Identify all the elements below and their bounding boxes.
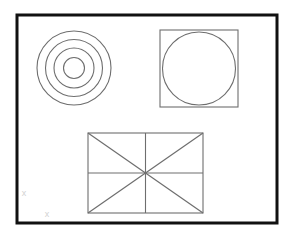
canvas-background: [0, 0, 297, 239]
corner-mark-lower: x: [45, 209, 50, 219]
internal-construction-lines: [88, 133, 203, 213]
corner-mark-upper: x: [22, 188, 27, 198]
drawing-canvas: xx: [0, 0, 297, 239]
geometry-drawing: xx: [0, 0, 297, 239]
rectangle-diagonals-figure: [88, 133, 203, 213]
